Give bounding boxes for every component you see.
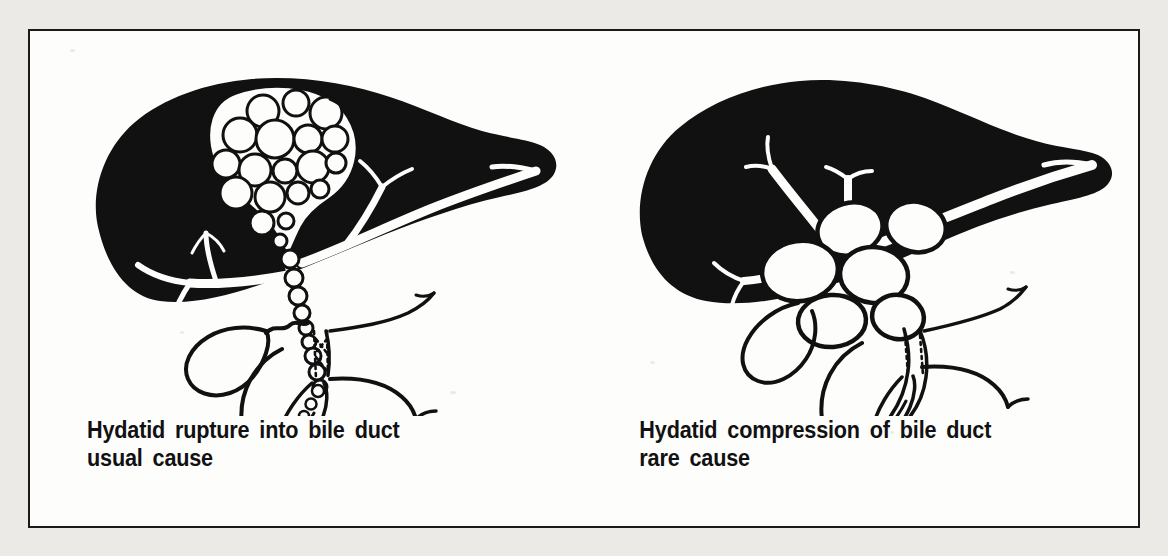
duodenum-c-loop (821, 343, 964, 416)
caption-hydatid-compression: Hydatid compression of bile duct rare ca… (586, 416, 1151, 472)
gallbladder (186, 328, 268, 396)
pancreatic-duct-tip (1008, 287, 1026, 290)
duct-daughter-cyst-chain (281, 250, 327, 394)
scan-speck (650, 361, 655, 364)
illustration-hydatid-compression (586, 31, 1142, 416)
scan-speck (1010, 271, 1015, 274)
pancreatic-duct-branch (924, 287, 1026, 331)
caption-line-2: rare cause (639, 444, 1151, 472)
liver-biliary-diagram-compression (586, 31, 1142, 416)
figure-frame: Hydatid rupture into bile duct usual cau… (28, 29, 1140, 528)
pancreatic-duct-branch (330, 293, 434, 331)
caption-hydatid-rupture: Hydatid rupture into bile duct usual cau… (30, 416, 599, 472)
pancreatic-duct-tip (416, 293, 434, 296)
scan-speck (450, 391, 456, 394)
caption-line-1: Hydatid rupture into bile duct (87, 416, 599, 444)
duodenum-upper-wall (922, 367, 1008, 407)
scan-speck (180, 331, 184, 334)
panel-hydatid-compression: Hydatid compression of bile duct rare ca… (586, 31, 1142, 526)
liver-speck (661, 284, 667, 290)
figure-root: Hydatid rupture into bile duct usual cau… (0, 0, 1168, 556)
scan-speck (890, 431, 894, 434)
panel-hydatid-rupture: Hydatid rupture into bile duct usual cau… (30, 31, 586, 526)
scan-speck (70, 49, 75, 52)
caption-line-1: Hydatid compression of bile duct (639, 416, 1151, 444)
caption-line-2: usual cause (87, 444, 599, 472)
duodenum-tip-detail (1008, 399, 1028, 407)
illustration-hydatid-rupture (30, 31, 586, 416)
liver-biliary-diagram-rupture (30, 31, 586, 416)
duodenum-upper-wall (330, 379, 416, 416)
